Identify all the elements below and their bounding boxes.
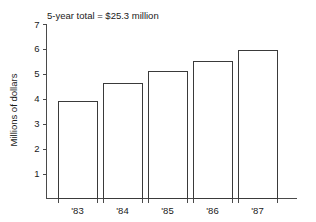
x-tick-label-group: '83'84'85'86'87 — [71, 205, 263, 216]
x-tick-label: '85 — [161, 205, 173, 216]
x-tick-label: '86 — [206, 205, 218, 216]
x-tick-label: '87 — [251, 205, 263, 216]
chart-canvas: 5-year total = $25.3 million Millions of… — [0, 0, 316, 222]
x-tick-label: '84 — [116, 205, 128, 216]
bar — [59, 102, 98, 199]
bar — [194, 62, 233, 199]
bars-group — [59, 51, 278, 199]
y-tick-group: 1234567 — [34, 19, 46, 180]
y-tick-label: 7 — [34, 19, 39, 30]
bar — [104, 84, 143, 199]
y-axis-label: Millions of dollars — [8, 73, 19, 146]
bar — [239, 51, 278, 199]
chart-title: 5-year total = $25.3 million — [47, 10, 159, 21]
y-tick-label: 1 — [34, 168, 39, 179]
x-tick-label: '83 — [71, 205, 83, 216]
x-tick-group — [59, 199, 278, 203]
y-tick-label: 3 — [34, 118, 39, 129]
bar — [149, 72, 188, 199]
y-tick-label: 5 — [34, 68, 39, 79]
y-tick-label: 2 — [34, 143, 39, 154]
bar-chart: 5-year total = $25.3 million Millions of… — [0, 0, 316, 222]
y-tick-label: 6 — [34, 43, 39, 54]
y-tick-label: 4 — [34, 93, 39, 104]
